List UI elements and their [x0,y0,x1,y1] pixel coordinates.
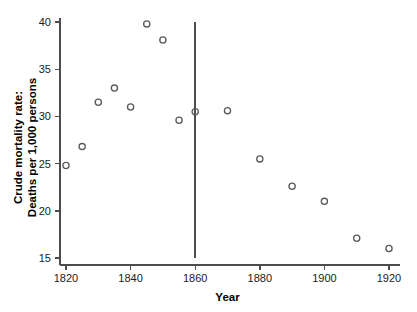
data-point-marker [63,162,69,168]
y-tick-label: 25 [39,158,51,170]
x-tick-label: 1820 [54,272,78,284]
data-point-marker [111,85,117,91]
x-tick-label: 1840 [118,272,142,284]
y-axis-title-line1: Crude mortality rate: [12,91,24,204]
data-point-marker [128,104,134,110]
data-point-marker [176,117,182,123]
x-tick-label: 1860 [183,272,207,284]
x-tick-label: 1880 [248,272,272,284]
y-tick-label: 20 [39,205,51,217]
y-axis-title-line2: Deaths per 1,000 persons [26,78,38,217]
data-point-marker [321,198,327,204]
y-tick-label: 30 [39,110,51,122]
data-point-marker [354,235,360,241]
data-point-marker [160,37,166,43]
x-tick-label: 1920 [377,272,401,284]
data-point-marker [289,183,295,189]
chart-screenshot: 152025303540182018401860188019001920Year… [0,0,417,312]
y-tick-label: 40 [39,16,51,28]
data-point-marker [224,108,230,114]
x-axis-title: Year [215,291,240,303]
data-point-marker [79,144,85,150]
y-tick-label: 15 [39,252,51,264]
x-tick-label: 1900 [312,272,336,284]
y-tick-label: 35 [39,63,51,75]
y-axis-title: Crude mortality rate:Deaths per 1,000 pe… [12,78,38,217]
plot-svg: 152025303540182018401860188019001920Year… [0,0,417,312]
data-point-marker [95,99,101,105]
data-point-marker [257,156,263,162]
scatter-plot: 152025303540182018401860188019001920Year… [0,0,417,312]
data-point-marker [386,245,392,251]
data-point-marker [144,21,150,27]
